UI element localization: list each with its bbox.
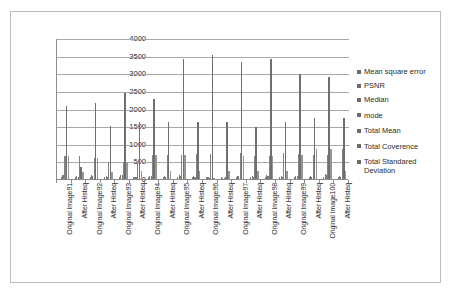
- legend-label: Total Standared Deviation: [364, 157, 441, 175]
- x-axis-label: After Histeq: [110, 183, 117, 275]
- plot-area: [56, 39, 348, 180]
- legend-item[interactable]: mode: [357, 111, 441, 120]
- bar: [212, 55, 214, 179]
- legend-item[interactable]: Median: [357, 95, 441, 104]
- legend-swatch-icon: [357, 70, 361, 74]
- legend-label: PSNR: [364, 81, 385, 90]
- bar-group: [247, 39, 262, 179]
- legend-swatch-icon: [357, 98, 361, 102]
- chart-frame: 40003500300025002000150010005000 Origina…: [10, 11, 441, 283]
- bar-group: [72, 39, 87, 179]
- bar: [301, 155, 303, 180]
- bar-chart: 40003500300025002000150010005000 Origina…: [11, 12, 442, 284]
- legend-item[interactable]: Mean square error: [357, 67, 441, 76]
- legend-label: Total Mean: [364, 126, 401, 135]
- bar: [141, 171, 143, 179]
- bar: [68, 156, 70, 179]
- bar: [111, 172, 113, 179]
- x-axis-label: After Histeq: [315, 183, 322, 275]
- bar-group: [57, 39, 72, 179]
- x-axis-label: Original Image99: [300, 183, 307, 275]
- bar: [97, 158, 99, 179]
- bar: [330, 149, 332, 179]
- bar: [343, 118, 345, 179]
- bar-group: [203, 39, 218, 179]
- bar-group: [218, 39, 233, 179]
- bar-group: [276, 39, 291, 179]
- bar: [184, 155, 186, 180]
- bar: [226, 122, 228, 179]
- bar: [199, 171, 201, 179]
- bar-group: [115, 39, 130, 179]
- bar: [316, 149, 318, 179]
- bar-group: [145, 39, 160, 179]
- bar: [168, 122, 170, 179]
- x-axis-label: After Histeq: [139, 183, 146, 275]
- bar: [126, 162, 128, 180]
- x-axis-label: Original Image98: [271, 183, 278, 275]
- legend-swatch-icon: [357, 129, 361, 133]
- x-axis-label: Original Image96: [212, 183, 219, 275]
- bar-group: [261, 39, 276, 179]
- legend-item[interactable]: Total Mean: [357, 126, 441, 135]
- legend-swatch-icon: [357, 160, 361, 164]
- bar: [345, 171, 347, 179]
- x-axis-label: After Histeq: [81, 183, 88, 275]
- bar: [82, 172, 84, 179]
- bar: [170, 171, 172, 179]
- bar: [286, 171, 288, 179]
- bar: [285, 122, 287, 179]
- bar: [257, 171, 259, 179]
- x-axis-label: Original Image95: [183, 183, 190, 275]
- x-axis-label: After Histeq: [344, 183, 351, 275]
- x-axis-label: After Histeq: [227, 183, 234, 275]
- x-axis-label: Original Image91: [66, 183, 73, 275]
- x-axis-label: After Histeq: [198, 183, 205, 275]
- x-axis-label: Original Image92: [96, 183, 103, 275]
- bar-series-container: [57, 39, 349, 179]
- x-axis-labels: Original Image91After HisteqOriginal Ima…: [56, 183, 348, 278]
- x-axis-label: After Histeq: [256, 183, 263, 275]
- x-axis-label: Original Image97: [242, 183, 249, 275]
- bar-group: [86, 39, 101, 179]
- x-axis-label: Original Image94: [154, 183, 161, 275]
- bar: [155, 155, 157, 180]
- bar: [228, 171, 230, 179]
- bar: [213, 178, 215, 179]
- bar-group: [305, 39, 320, 179]
- chart-legend: Mean square errorPSNRMedianmodeTotal Mea…: [357, 67, 441, 182]
- bar-group: [334, 39, 349, 179]
- legend-swatch-icon: [357, 84, 361, 88]
- bar-group: [232, 39, 247, 179]
- bar: [272, 156, 274, 179]
- bar: [139, 122, 141, 179]
- x-axis-label: After Histeq: [285, 183, 292, 275]
- legend-label: mode: [364, 111, 383, 120]
- legend-swatch-icon: [357, 144, 361, 148]
- legend-label: Mean square error: [364, 67, 426, 76]
- x-axis-label: Original Image100: [329, 183, 336, 275]
- x-axis-label: After Histeq: [169, 183, 176, 275]
- legend-item[interactable]: Total Coverence: [357, 142, 441, 151]
- bar-group: [174, 39, 189, 179]
- legend-swatch-icon: [357, 113, 361, 117]
- legend-label: Total Coverence: [364, 142, 418, 151]
- bar-group: [101, 39, 116, 179]
- legend-item[interactable]: PSNR: [357, 81, 441, 90]
- legend-item[interactable]: Total Standared Deviation: [357, 157, 441, 175]
- bar: [197, 122, 199, 179]
- bar-group: [320, 39, 335, 179]
- bar-group: [188, 39, 203, 179]
- bar-group: [130, 39, 145, 179]
- bar-group: [159, 39, 174, 179]
- bar: [243, 156, 245, 179]
- bar-group: [291, 39, 306, 179]
- legend-label: Median: [364, 95, 389, 104]
- x-axis-label: Original Image93: [125, 183, 132, 275]
